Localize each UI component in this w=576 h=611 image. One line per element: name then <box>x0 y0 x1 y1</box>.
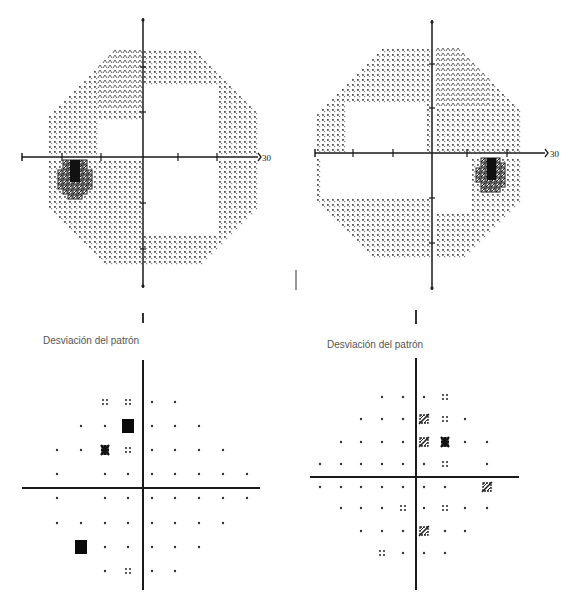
axis-end-dot <box>141 284 144 287</box>
right-grayscale-scale-label: 30 <box>550 149 560 159</box>
left-pattern-deviation-symbols <box>56 399 248 574</box>
pattern-deviation-title-right: Desviación del patrón <box>327 339 423 350</box>
stray-mark <box>415 310 417 324</box>
axis-arrow-icon <box>258 153 261 161</box>
axis-end-dot <box>430 20 433 23</box>
right-pattern-deviation-symbols <box>319 394 492 556</box>
left-grayscale-scotoma-core <box>70 160 80 182</box>
visual-field-plots: 3030 <box>0 0 576 611</box>
axis-end-dot <box>141 18 144 21</box>
axis-end-dot <box>430 286 433 289</box>
left-grayscale-scale-label: 30 <box>262 153 272 163</box>
pattern-deviation-title-left: Desviación del patrón <box>43 335 139 346</box>
axis-arrow-icon <box>545 149 548 157</box>
stray-mark <box>142 313 144 323</box>
right-grayscale-scotoma-core <box>487 158 496 180</box>
stray-mark <box>296 270 297 290</box>
visual-field-figure: 3030 Desviación del patrón Desviación de… <box>0 0 576 611</box>
